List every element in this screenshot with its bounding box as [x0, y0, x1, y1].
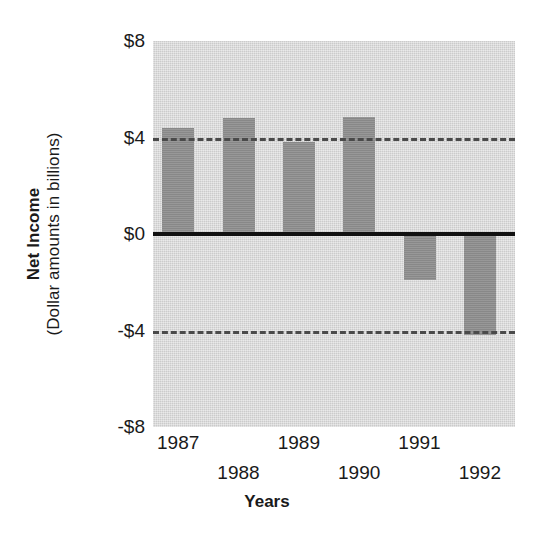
y-axis-tick-0: $0 — [78, 223, 145, 245]
x-axis-title-label: Years — [244, 492, 289, 512]
x-axis-tick-labels: 198719881989199019911992 — [0, 432, 534, 492]
y-axis-title: Net Income (Dollar amounts in billions) — [14, 41, 74, 427]
x-axis-tick-1989: 1989 — [278, 432, 320, 454]
plot-area — [153, 41, 515, 427]
x-axis-title: Years — [0, 492, 534, 512]
x-axis-tick-1991: 1991 — [398, 432, 440, 454]
gridline-4 — [153, 138, 515, 141]
bar-1988 — [223, 118, 255, 234]
gridline--4 — [153, 331, 515, 334]
bar-1991 — [404, 234, 436, 280]
y-axis-title-sub: (Dollar amounts in billions) — [44, 132, 64, 335]
x-axis-tick-1988: 1988 — [217, 462, 259, 484]
x-axis-tick-1987: 1987 — [157, 432, 199, 454]
zero-axis-line — [153, 232, 515, 236]
y-axis-tick-8: $8 — [78, 30, 145, 52]
bar-1987 — [162, 128, 194, 234]
x-axis-tick-1990: 1990 — [338, 462, 380, 484]
y-axis-tick-4: $4 — [78, 127, 145, 149]
y-axis-tick-4: -$4 — [78, 320, 145, 342]
x-axis-tick-1992: 1992 — [459, 462, 501, 484]
net-income-bar-chart: Net Income (Dollar amounts in billions) … — [0, 0, 534, 538]
bar-1992 — [464, 234, 496, 335]
bar-1989 — [283, 142, 315, 234]
y-axis-title-main: Net Income — [24, 132, 44, 335]
bar-1990 — [343, 117, 375, 234]
